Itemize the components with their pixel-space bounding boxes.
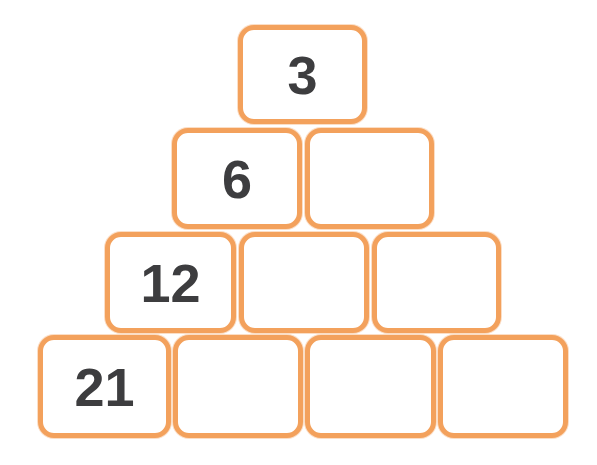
- pyramid-cell-r2-c2[interactable]: [305, 128, 434, 229]
- pyramid-cell-r3-c1[interactable]: 12: [105, 232, 236, 333]
- pyramid-cell-r4-c3[interactable]: [305, 335, 436, 438]
- pyramid-cell-r4-c1[interactable]: 21: [38, 335, 171, 438]
- pyramid-cell-r2-c1[interactable]: 6: [172, 128, 302, 229]
- pyramid-cell-r3-c2[interactable]: [239, 232, 369, 333]
- pyramid-cell-r3-c3[interactable]: [372, 232, 501, 333]
- pyramid-cell-r4-c4[interactable]: [438, 335, 568, 438]
- pyramid-cell-r1-c1[interactable]: 3: [238, 25, 367, 124]
- pyramid-cell-r4-c2[interactable]: [173, 335, 303, 438]
